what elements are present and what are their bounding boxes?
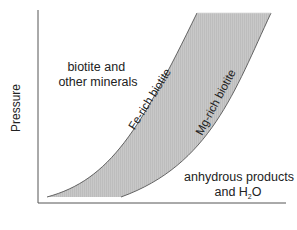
region-label-line1: biotite and bbox=[67, 60, 125, 74]
region-label-line1: anhydrous products bbox=[184, 170, 294, 184]
region-label-line2: other minerals bbox=[58, 75, 137, 89]
region-label-biotite-and-other-minerals: biotite and other minerals bbox=[58, 60, 137, 89]
biotite-stability-diagram: Pressure biotite and other minerals anhy… bbox=[0, 0, 297, 230]
region-label-and-h2o: and H2O bbox=[215, 185, 262, 200]
h2o-suffix: O bbox=[252, 185, 262, 199]
y-axis-label: Pressure bbox=[9, 84, 23, 132]
h2o-prefix: and H bbox=[215, 185, 248, 199]
region-label-anhydrous-products: anhydrous products bbox=[184, 170, 294, 184]
